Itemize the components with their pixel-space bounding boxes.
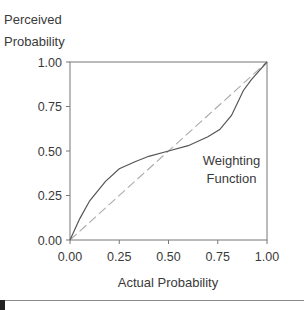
y-tick-label: 0.75 [38, 100, 62, 114]
x-tick-label: 0.50 [156, 250, 180, 264]
y-tick-label: 0.00 [38, 234, 62, 248]
y-axis-title-line-1: Perceived [4, 12, 62, 27]
y-axis-title-line-2: Probability [4, 34, 65, 49]
x-axis-ticks: 0.000.250.500.751.00 [58, 240, 279, 264]
annotation-line: Weighting [203, 153, 261, 168]
y-tick-label: 0.25 [38, 189, 62, 203]
annotation-line: Function [207, 171, 257, 186]
x-tick-label: 0.00 [58, 250, 82, 264]
y-tick-label: 1.00 [38, 56, 62, 70]
x-axis-title: Actual Probability [118, 275, 219, 290]
x-tick-label: 1.00 [255, 250, 279, 264]
y-axis-ticks: 0.000.250.500.751.00 [38, 56, 70, 248]
y-tick-label: 0.50 [38, 145, 62, 159]
y-axis-title: Perceived Probability [4, 12, 65, 49]
probability-weighting-chart: Perceived Probability 0.000.250.500.751.… [0, 0, 304, 300]
weighting-function-annotation: WeightingFunction [203, 153, 261, 186]
bottom-marker [0, 300, 5, 310]
x-tick-label: 0.25 [107, 250, 131, 264]
bottom-divider [5, 300, 304, 301]
x-tick-label: 0.75 [206, 250, 230, 264]
